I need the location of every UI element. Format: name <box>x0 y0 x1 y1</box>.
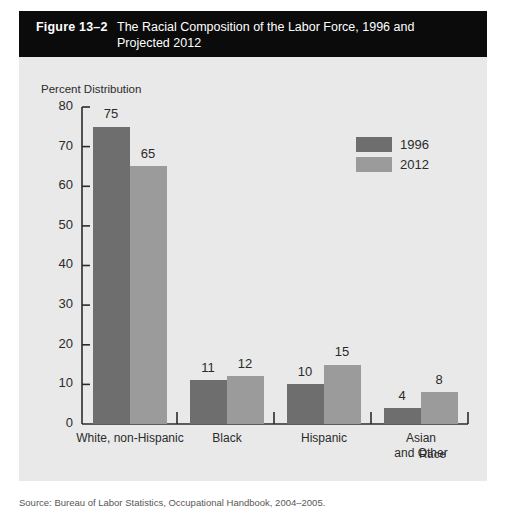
category-label-asian-and-other: Asianand Other <box>361 431 481 460</box>
bar-black-2012 <box>227 376 264 424</box>
bar-white-non-hispanic-1996 <box>93 127 130 424</box>
y-tick-label-0: 0 <box>47 415 73 430</box>
bar-asian-and-other-1996 <box>384 408 421 424</box>
bar-value-white-non-hispanic-2012: 65 <box>128 146 168 161</box>
y-tick-label-50: 50 <box>47 217 73 232</box>
bar-white-non-hispanic-2012 <box>130 166 167 424</box>
figure-header-bar: Figure 13–2 The Racial Composition of th… <box>19 11 487 57</box>
bar-asian-and-other-2012 <box>421 392 458 424</box>
plot-area: Percent Distribution Race 80 70 60 50 40… <box>19 57 487 481</box>
figure-title: The Racial Composition of the Labor Forc… <box>117 20 469 51</box>
bar-hispanic-2012 <box>324 365 361 425</box>
y-axis-title: Percent Distribution <box>41 83 141 95</box>
legend-item-2012: 2012 <box>356 157 429 172</box>
y-tick-label-20: 20 <box>47 336 73 351</box>
y-tick-label-70: 70 <box>47 138 73 153</box>
y-tick-label-10: 10 <box>47 375 73 390</box>
y-tick-label-40: 40 <box>47 256 73 271</box>
bar-value-hispanic-2012: 15 <box>322 344 362 359</box>
y-tick-label-30: 30 <box>47 296 73 311</box>
source-note: Source: Bureau of Labor Statistics, Occu… <box>19 497 325 508</box>
legend-swatch-2012-icon <box>356 157 392 172</box>
legend-label-1996: 1996 <box>400 137 429 152</box>
bar-value-asian-and-other-1996: 4 <box>382 388 422 403</box>
y-tick-label-60: 60 <box>47 177 73 192</box>
legend-label-2012: 2012 <box>400 157 429 172</box>
y-tick-label-80: 80 <box>47 98 73 113</box>
chart-panel: Percent Distribution Race 80 70 60 50 40… <box>19 57 487 481</box>
legend-item-1996: 1996 <box>356 137 429 152</box>
chart-legend: 1996 2012 <box>356 137 429 177</box>
legend-swatch-1996-icon <box>356 137 392 152</box>
bar-black-1996 <box>190 380 227 424</box>
bar-value-hispanic-1996: 10 <box>285 364 325 379</box>
bar-value-white-non-hispanic-1996: 75 <box>91 106 131 121</box>
bar-value-asian-and-other-2012: 8 <box>419 372 459 387</box>
bar-value-black-1996: 11 <box>188 360 228 375</box>
bar-value-black-2012: 12 <box>225 356 265 371</box>
bar-hispanic-1996 <box>287 384 324 424</box>
figure-number: Figure 13–2 <box>36 20 108 34</box>
